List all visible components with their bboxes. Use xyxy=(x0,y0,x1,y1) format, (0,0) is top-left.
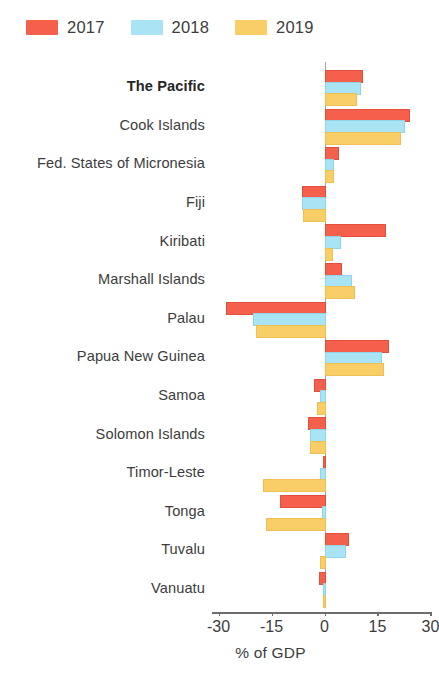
x-tick-mark xyxy=(430,612,431,616)
x-axis-line xyxy=(212,612,432,614)
legend-item-2018: 2018 xyxy=(131,19,210,36)
bar-2019-tuvalu xyxy=(320,556,326,569)
bar-2019-palau xyxy=(256,325,327,338)
bar-2019-samoa xyxy=(317,402,326,415)
bar-2017-tonga xyxy=(280,495,327,508)
bar-2018-tuvalu xyxy=(325,545,346,558)
chart-legend: 2017 2018 2019 xyxy=(26,12,314,42)
plot-area: The PacificCook IslandsFed. States of Mi… xyxy=(0,62,439,614)
bar-2019-fed-states-of-micronesia xyxy=(325,170,334,183)
bar-2019-fiji xyxy=(303,209,327,222)
legend-swatch-2019 xyxy=(235,20,267,35)
x-tick-mark xyxy=(377,612,378,616)
legend-label-2018: 2018 xyxy=(172,19,210,36)
bar-2019-tonga xyxy=(266,518,326,531)
legend-item-2017: 2017 xyxy=(26,19,105,36)
legend-label-2019: 2019 xyxy=(276,19,314,36)
x-axis-title: % of GDP xyxy=(0,644,439,662)
bar-2019-timor-leste xyxy=(263,479,327,492)
x-tick-label: 15 xyxy=(369,618,387,636)
bar-2019-marshall-islands xyxy=(325,286,355,299)
legend-swatch-2018 xyxy=(131,20,163,35)
x-tick-label: 30 xyxy=(422,618,439,636)
bar-2019-solomon-islands xyxy=(310,441,327,454)
x-tick-mark xyxy=(272,612,273,616)
bar-2019-kiribati xyxy=(325,248,333,261)
x-axis-title-text: % of GDP xyxy=(235,644,306,662)
legend-swatch-2017 xyxy=(26,20,58,35)
x-tick-label: -15 xyxy=(260,618,283,636)
bar-2019-vanuatu xyxy=(323,595,327,608)
x-tick-mark xyxy=(219,612,220,616)
bar-2019-papua-new-guinea xyxy=(325,363,385,376)
chart-figure: 2017 2018 2019 The PacificCook IslandsFe… xyxy=(0,0,439,673)
bars-layer xyxy=(0,62,439,608)
legend-item-2019: 2019 xyxy=(235,19,314,36)
bar-2019-cook-islands xyxy=(325,132,401,145)
legend-label-2017: 2017 xyxy=(67,19,105,36)
bar-2019-the-pacific xyxy=(325,93,357,106)
x-tick-label: 0 xyxy=(320,618,329,636)
x-tick-label: -30 xyxy=(207,618,230,636)
x-tick-mark xyxy=(325,612,326,616)
